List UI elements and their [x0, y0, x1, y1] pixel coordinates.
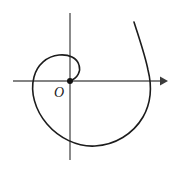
spiral-curve	[33, 22, 151, 146]
origin-label: O	[54, 86, 64, 100]
origin-point-marker	[67, 78, 73, 84]
x-axis-arrowhead-icon	[160, 77, 168, 86]
spiral-figure: O	[0, 0, 174, 173]
figure-canvas	[0, 0, 174, 173]
